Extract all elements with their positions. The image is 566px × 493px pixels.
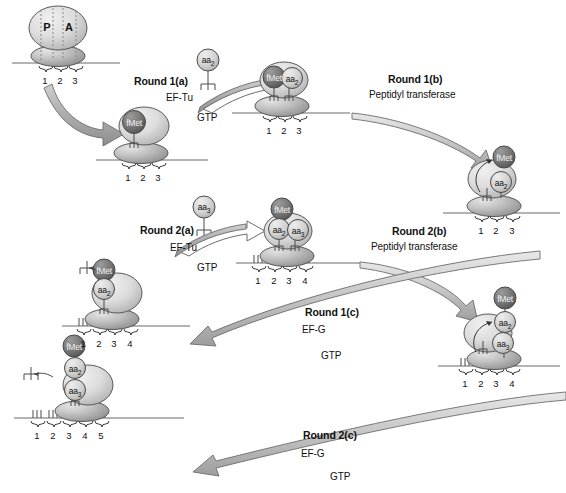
step-energy-round2a: GTP [197, 263, 217, 274]
residue-aa2: aa2 [493, 318, 517, 330]
codon-number: 1 [252, 275, 264, 286]
codon-number: 1 [459, 378, 471, 389]
codon-number: 4 [79, 430, 91, 441]
a-site-label: A [62, 21, 76, 33]
codon-number: 2 [47, 430, 59, 441]
codon-number: 4 [299, 275, 311, 286]
codon-number: 2 [490, 225, 502, 236]
step-title-round2a: Round 2(a) [140, 225, 194, 236]
codon-number: 2 [268, 275, 280, 286]
codon-number: 1 [31, 430, 43, 441]
residue-aa3: aa3 [286, 226, 310, 238]
p-site-label: P [40, 21, 54, 33]
residue-fmet: fMet [122, 118, 146, 128]
residue-fmet: fMet [62, 342, 86, 352]
residue-aa2: aa2 [196, 55, 220, 67]
step-title-round1a: Round 1(a) [134, 76, 188, 87]
released-trna-2 [24, 367, 53, 380]
codon-number: 3 [63, 430, 75, 441]
complex-translocated-round1 [62, 259, 190, 335]
codon-number: 3 [152, 172, 164, 183]
step-factor-round1c: EF-G [302, 325, 326, 336]
residue-aa2: aa2 [489, 178, 513, 190]
residue-aa3: aa3 [192, 202, 216, 214]
residue-aa2: aa2 [280, 74, 304, 86]
codon-number: 3 [506, 225, 518, 236]
step-factor-round1b: Peptidyl transferase [369, 90, 455, 101]
codon-number: 1 [475, 225, 487, 236]
residue-aa2: aa2 [63, 364, 87, 376]
codon-number: 5 [95, 430, 107, 441]
codon-number: 1 [263, 125, 275, 136]
codon-number: 3 [108, 338, 120, 349]
residue-fmet: fMet [270, 205, 294, 215]
codon-number: 4 [124, 338, 136, 349]
residue-fmet: fMet [492, 153, 516, 163]
step-factor-round2b: Peptidyl transferase [371, 242, 457, 253]
codon-number: 2 [137, 172, 149, 183]
step-title-round2c: Round 2(c) [303, 430, 357, 441]
complex-initiation [12, 6, 120, 72]
step-title-round1b: Round 1(b) [388, 74, 442, 85]
codon-number: 1 [122, 172, 134, 183]
residue-fmet: fMet [92, 266, 116, 276]
codon-number: 2 [54, 75, 66, 86]
step-factor-round1a: EF-Tu [166, 93, 193, 104]
arrow-round1b [352, 113, 494, 173]
step-energy-round1c: GTP [321, 351, 341, 362]
codon-number: 3 [283, 275, 295, 286]
codon-number: 1 [39, 75, 51, 86]
step-factor-round2a: EF-Tu [170, 243, 197, 254]
residue-aa2: aa2 [92, 285, 116, 297]
residue-aa3: aa3 [63, 386, 87, 398]
residue-aa3: aa3 [491, 339, 515, 351]
step-title-round2b: Round 2(b) [392, 226, 446, 237]
step-energy-round2c: GTP [330, 472, 350, 483]
step-title-round1c: Round 1(c) [305, 307, 359, 318]
codon-number: 2 [278, 125, 290, 136]
arrow-round2c [193, 392, 566, 476]
codon-number: 3 [490, 378, 502, 389]
residue-fmet: fMet [493, 294, 517, 304]
step-energy-round1a: GTP [197, 113, 217, 124]
arrow-initiation-to-fmet [44, 84, 124, 146]
codon-number: 4 [506, 378, 518, 389]
codon-number: 3 [293, 125, 305, 136]
codon-number: 2 [475, 378, 487, 389]
figure-canvas: P A 1 2 3 fMet 1 2 3 aa2 Round 1(a) EF-T… [0, 0, 566, 493]
step-factor-round2c: EF-G [301, 449, 325, 460]
codon-number: 2 [93, 338, 105, 349]
codon-number: 3 [69, 75, 81, 86]
